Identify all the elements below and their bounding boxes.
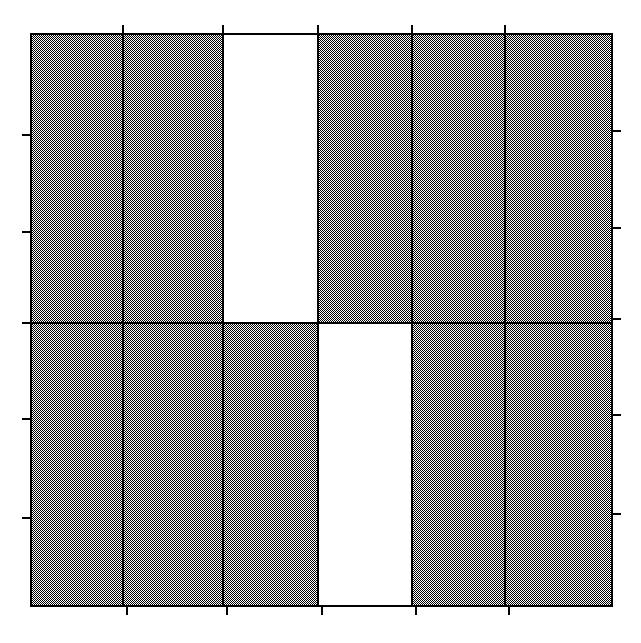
mosaic-cell-r1-c4	[412, 323, 505, 606]
mosaic-cell-r0-c3	[318, 34, 412, 323]
mosaic-cell-r0-c2	[223, 34, 318, 323]
mosaic-cell-r1-c5	[505, 323, 612, 606]
mosaic-cell-r0-c1	[123, 34, 223, 323]
mosaic-cell-r0-c0	[31, 34, 123, 323]
mosaic-cell-r0-c4	[412, 34, 505, 323]
plot-area	[0, 0, 641, 643]
mosaic-cell-r0-c5	[505, 34, 612, 323]
mosaic-plot-canvas	[0, 0, 641, 643]
mosaic-cell-r1-c1	[123, 323, 223, 606]
mosaic-cell-r1-c0	[31, 323, 123, 606]
mosaic-plot-figure	[0, 0, 641, 643]
mosaic-cell-r1-c3	[318, 323, 412, 606]
mosaic-cell-r1-c2	[223, 323, 318, 606]
mosaic-cells-layer	[31, 34, 612, 606]
